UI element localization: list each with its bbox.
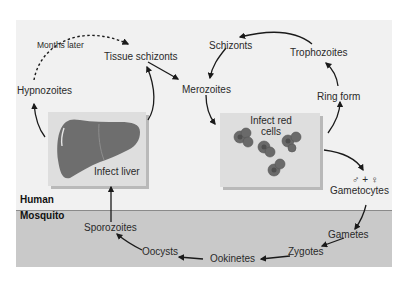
months-later-label: Months later — [37, 40, 84, 51]
hypnozoites-label: Hypnozoites — [17, 85, 72, 96]
mosquito-label: Mosquito — [20, 210, 64, 221]
merozoites-label: Merozoites — [182, 84, 231, 95]
malaria-life-cycle-diagram: Human Mosquito Months later Hypnozoites … — [0, 0, 404, 288]
tissue-schizonts-label: Tissue schizonts — [104, 51, 178, 62]
human-label: Human — [20, 194, 54, 205]
trophozoites-label: Trophozoites — [290, 47, 347, 58]
schizonts-label: Schizonts — [209, 40, 252, 51]
infect-liver-label: Infect liver — [94, 166, 140, 177]
infect-red-cells-label: Infect red cells — [246, 115, 296, 137]
ring-form-label: Ring form — [317, 91, 360, 102]
ookinetes-label: Ookinetes — [210, 253, 255, 264]
sex-symbols-label: ♂ + ♀ — [352, 174, 378, 185]
sporozoites-label: Sporozoites — [84, 222, 137, 233]
zygotes-label: Zygotes — [288, 246, 324, 257]
gametes-label: Gametes — [328, 229, 369, 240]
gametocytes-label: Gametocytes — [330, 185, 389, 196]
oocysts-label: Oocysts — [142, 246, 178, 257]
